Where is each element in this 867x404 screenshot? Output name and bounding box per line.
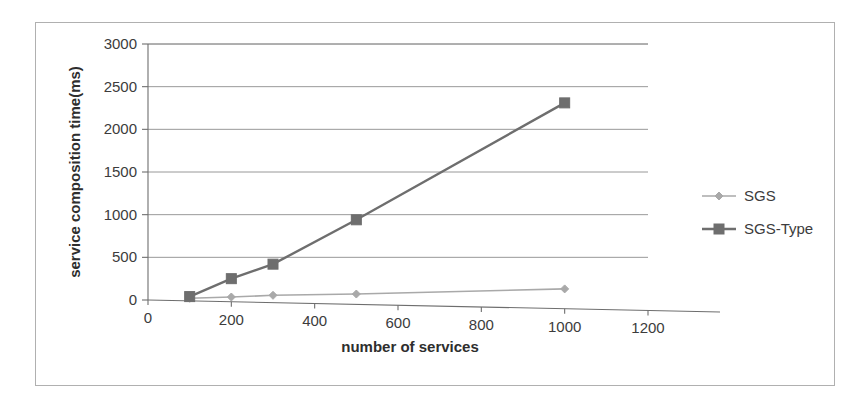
x-tick-label: 1200 [631, 319, 664, 336]
x-tick-label: 0 [144, 309, 152, 326]
x-tick-label: 400 [302, 312, 327, 329]
y-tick-label: 1000 [104, 206, 137, 223]
x-tick-label: 200 [219, 311, 244, 328]
marker-square [185, 292, 195, 302]
y-tick-label: 0 [129, 291, 137, 308]
legend-label: SGS [744, 187, 776, 204]
x-tick-label: 800 [469, 316, 494, 333]
marker-square [714, 224, 724, 234]
line-chart: 0500100015002000250030000200400600800100… [0, 0, 867, 404]
marker-square [268, 259, 278, 269]
x-axis-title: number of services [341, 338, 479, 355]
marker-square [560, 98, 570, 108]
legend-item-sgs[interactable]: SGS [702, 187, 776, 204]
marker-square [226, 274, 236, 284]
y-tick-label: 2000 [104, 120, 137, 137]
y-tick-label: 2500 [104, 78, 137, 95]
chart-figure: 0500100015002000250030000200400600800100… [0, 0, 867, 404]
legend-item-sgs-type[interactable]: SGS-Type [702, 220, 813, 237]
marker-square [351, 215, 361, 225]
marker-diamond [715, 192, 723, 200]
x-tick-label: 600 [385, 314, 410, 331]
y-tick-label: 500 [112, 248, 137, 265]
x-tick-label: 1000 [548, 318, 581, 335]
y-axis-title: service composition time(ms) [66, 66, 83, 278]
y-tick-label: 3000 [104, 35, 137, 52]
legend-label: SGS-Type [744, 220, 813, 237]
legend: SGSSGS-Type [702, 187, 813, 237]
y-axis-ticks: 050010001500200025003000 [104, 35, 148, 308]
y-tick-label: 1500 [104, 163, 137, 180]
